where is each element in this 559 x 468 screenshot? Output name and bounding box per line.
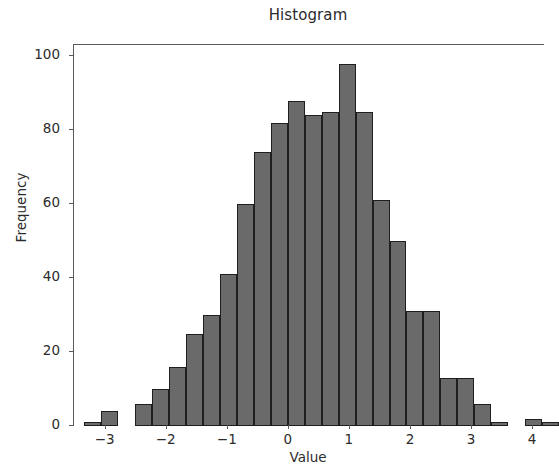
histogram-figure: Histogram 020406080100 −3−2−101234 Value…: [0, 0, 559, 468]
x-tick-label: −3: [85, 431, 125, 447]
histogram-bar: [423, 311, 440, 426]
x-tick-mark: [105, 425, 106, 429]
x-tick-label: −1: [207, 431, 247, 447]
y-tick-mark: [69, 203, 73, 204]
x-tick-mark: [532, 425, 533, 429]
y-tick-label: 0: [14, 417, 60, 431]
y-tick-mark: [69, 129, 73, 130]
histogram-bar: [373, 200, 390, 426]
y-tick-mark: [69, 277, 73, 278]
x-tick-mark: [410, 425, 411, 429]
histogram-bar: [542, 422, 559, 426]
x-tick-label: 0: [268, 431, 308, 447]
histogram-bar: [101, 411, 118, 426]
x-axis-label: Value: [73, 450, 543, 465]
y-tick-label: 100: [14, 47, 60, 61]
histogram-bars: [74, 45, 544, 426]
x-tick-label: 4: [512, 431, 552, 447]
x-tick-mark: [349, 425, 350, 429]
histogram-bar: [186, 334, 203, 426]
histogram-bar: [356, 112, 373, 426]
histogram-bar: [339, 64, 356, 427]
y-tick-mark: [69, 425, 73, 426]
x-tick-mark: [227, 425, 228, 429]
histogram-bar: [322, 112, 339, 426]
histogram-bar: [288, 101, 305, 427]
y-tick-mark: [69, 55, 73, 56]
histogram-bar: [440, 378, 457, 426]
histogram-bar: [305, 115, 322, 426]
histogram-bar: [135, 404, 152, 426]
histogram-bar: [406, 311, 423, 426]
chart-title: Histogram: [73, 6, 543, 24]
x-tick-label: 1: [329, 431, 369, 447]
x-tick-mark: [471, 425, 472, 429]
y-axis-label: Frequency: [14, 143, 29, 273]
x-tick-label: 2: [390, 431, 430, 447]
histogram-bar: [390, 241, 407, 426]
histogram-bar: [237, 204, 254, 426]
histogram-bar: [152, 389, 169, 426]
x-tick-label: 3: [451, 431, 491, 447]
histogram-bar: [271, 123, 288, 426]
histogram-bar: [254, 152, 271, 426]
x-tick-label: −2: [146, 431, 186, 447]
plot-area: [73, 44, 544, 426]
histogram-bar: [220, 274, 237, 426]
x-tick-mark: [288, 425, 289, 429]
y-tick-label: 20: [14, 343, 60, 357]
histogram-bar: [84, 422, 101, 426]
x-tick-mark: [166, 425, 167, 429]
histogram-bar: [457, 378, 474, 426]
histogram-bar: [525, 419, 542, 426]
y-tick-mark: [69, 351, 73, 352]
histogram-bar: [474, 404, 491, 426]
y-tick-label: 80: [14, 121, 60, 135]
histogram-bar: [203, 315, 220, 426]
histogram-bar: [491, 422, 508, 426]
histogram-bar: [169, 367, 186, 426]
